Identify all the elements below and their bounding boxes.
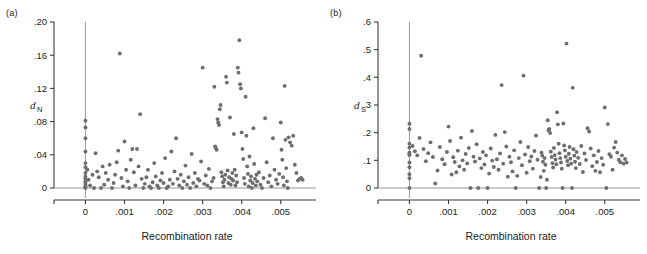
data-point <box>529 155 533 159</box>
data-point <box>83 171 87 175</box>
data-point <box>108 163 112 167</box>
data-point <box>238 82 242 86</box>
y-tick-label: .5 <box>363 44 371 55</box>
data-point <box>290 144 294 148</box>
data-point <box>140 177 144 181</box>
data-point <box>569 162 573 166</box>
data-point <box>497 168 501 172</box>
data-point <box>112 181 116 185</box>
data-point <box>207 167 211 171</box>
panel-a-dn: (a) 0.04.08.12.16.200.001.002.003.004.00… <box>0 0 323 254</box>
data-point <box>144 175 148 179</box>
x-tick-label: 0 <box>83 206 88 217</box>
data-point <box>85 168 89 172</box>
data-point <box>190 152 194 156</box>
data-point <box>586 126 590 130</box>
data-point <box>252 162 256 166</box>
data-point <box>438 145 442 149</box>
data-point <box>487 172 491 176</box>
x-tick-label: .002 <box>154 206 173 217</box>
y-tick-label: .16 <box>34 50 47 61</box>
data-point <box>135 147 139 151</box>
y-axis-title-subscript: N <box>37 105 42 114</box>
data-point <box>459 136 463 140</box>
data-point <box>283 84 287 88</box>
y-tick-label: .6 <box>363 16 371 27</box>
data-point <box>526 145 530 149</box>
data-point <box>419 54 423 58</box>
data-point <box>464 152 468 156</box>
y-tick-label: .1 <box>363 155 371 166</box>
data-point <box>158 179 162 183</box>
data-point <box>286 186 290 190</box>
data-point <box>245 164 249 168</box>
data-point <box>493 133 497 137</box>
data-point <box>265 160 269 164</box>
data-point <box>193 171 197 175</box>
data-point <box>482 163 486 167</box>
data-point <box>565 159 569 163</box>
data-point <box>173 169 177 173</box>
data-point <box>249 174 253 178</box>
data-point <box>250 186 254 190</box>
data-point <box>413 149 417 153</box>
data-point <box>575 150 579 154</box>
data-point <box>215 148 219 152</box>
data-point <box>104 171 108 175</box>
data-point <box>121 184 125 188</box>
data-point <box>465 161 469 165</box>
data-point <box>88 184 92 188</box>
panel-a-plot: 0.04.08.12.16.200.001.002.003.004.005dNR… <box>0 0 323 254</box>
data-point <box>593 169 597 173</box>
data-point <box>537 186 541 190</box>
data-point <box>116 149 120 153</box>
data-point <box>287 135 291 139</box>
data-point <box>475 142 479 146</box>
data-point <box>515 174 519 178</box>
data-point <box>182 179 186 183</box>
data-point <box>556 122 560 126</box>
data-point <box>223 173 227 177</box>
data-point <box>228 116 232 120</box>
data-point <box>557 142 561 146</box>
data-point <box>568 145 572 149</box>
data-point <box>433 182 437 186</box>
data-point <box>266 180 270 184</box>
data-point <box>224 75 228 79</box>
y-tick-label: 0 <box>366 182 371 193</box>
data-point <box>445 150 449 154</box>
data-point <box>511 169 515 173</box>
data-point <box>130 147 134 151</box>
data-point <box>240 130 244 134</box>
data-point <box>422 147 426 151</box>
data-point <box>501 162 505 166</box>
data-point <box>210 179 214 183</box>
data-point <box>614 140 618 144</box>
data-point <box>212 85 216 89</box>
data-point <box>257 170 261 174</box>
y-tick-label: .4 <box>363 72 371 83</box>
data-point <box>543 156 547 160</box>
y-tick-label: 0 <box>42 182 47 193</box>
data-point <box>251 181 255 185</box>
data-point <box>600 156 604 160</box>
data-point <box>554 158 558 162</box>
data-point <box>522 74 526 78</box>
data-point <box>597 149 601 153</box>
data-point <box>241 147 245 151</box>
data-point <box>563 148 567 152</box>
data-point <box>288 140 292 144</box>
data-point <box>146 168 150 172</box>
data-point <box>237 71 241 75</box>
data-point <box>187 175 191 179</box>
data-point <box>151 180 155 184</box>
x-tick-label: .005 <box>272 206 291 217</box>
data-point <box>123 140 127 144</box>
data-point <box>523 153 527 157</box>
data-point <box>83 125 87 129</box>
data-point <box>545 178 549 182</box>
data-point <box>268 174 272 178</box>
data-point <box>277 172 281 176</box>
data-point <box>457 164 461 168</box>
data-point <box>166 184 170 188</box>
